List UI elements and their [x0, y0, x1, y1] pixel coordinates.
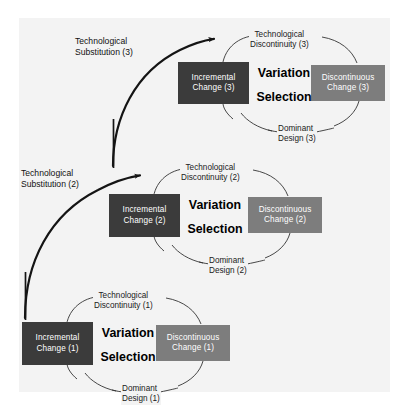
cycle-2-variation-selection-label: Variation Selection — [184, 199, 246, 236]
cycle-1-discontinuous-line1: Discontinuous — [167, 333, 220, 344]
cycle-2-discontinuous-change-box[interactable]: Discontinuous Change (2) — [248, 197, 322, 233]
cycle-2-variation-text: Variation — [184, 199, 246, 212]
cycle-3-discontinuous-line1: Discontinuous — [322, 73, 375, 84]
cycle-3-incremental-line1: Incremental — [192, 73, 236, 84]
substitution-2-line1: Technological — [21, 168, 79, 179]
cycle-3-variation-text: Variation — [253, 67, 315, 80]
cycle-2-selection-text: Selection — [184, 223, 246, 236]
cycle-1-incremental-line1: Incremental — [36, 333, 80, 344]
cycle-2-dominant-line2: Design (2) — [209, 266, 247, 276]
cycle-1-variation-selection-label: Variation Selection — [97, 327, 159, 364]
cycle-2-incremental-change-box[interactable]: Incremental Change (2) — [109, 194, 180, 237]
cycle-3-incremental-line2: Change (3) — [193, 83, 235, 94]
cycle-1-dominant-line1: Dominant — [122, 384, 160, 394]
cycle-2-dominant-line1: Dominant — [209, 256, 247, 266]
technological-substitution-2-label: Technological Substitution (2) — [20, 168, 80, 190]
cycle-1-discontinuity-line2: Discontinuity (1) — [94, 301, 153, 311]
cycle-3-discontinuous-line2: Change (3) — [327, 83, 369, 94]
cycle-1-dominant-design-label: Dominant Design (1) — [121, 384, 161, 405]
cycle-1-incremental-change-box[interactable]: Incremental Change (1) — [22, 322, 93, 365]
cycle-2-discontinuity-line1: Technological — [181, 163, 240, 173]
technological-substitution-3-label: Technological Substitution (3) — [74, 36, 134, 58]
cycle-2-discontinuous-line1: Discontinuous — [259, 205, 312, 216]
cycle-3-dominant-line2: Design (3) — [278, 134, 316, 144]
cycle-3-technological-discontinuity-label: Technological Discontinuity (3) — [249, 30, 310, 51]
cycle-1-selection-text: Selection — [97, 351, 159, 364]
cycle-3-discontinuity-line1: Technological — [250, 30, 309, 40]
cycle-1-variation-text: Variation — [97, 327, 159, 340]
cycle-3-incremental-change-box[interactable]: Incremental Change (3) — [178, 62, 249, 104]
cycle-1-incremental-line2: Change (1) — [37, 344, 79, 355]
cycle-1-discontinuous-line2: Change (1) — [172, 343, 214, 354]
substitution-3-line1: Technological — [75, 36, 133, 47]
cycle-1-discontinuity-line1: Technological — [94, 291, 153, 301]
cycle-3-dominant-design-label: Dominant Design (3) — [277, 124, 317, 145]
cycle-2-dominant-design-label: Dominant Design (2) — [208, 256, 248, 277]
cycle-3-discontinuous-change-box[interactable]: Discontinuous Change (3) — [311, 65, 385, 101]
cycle-3-variation-selection-label: Variation Selection — [253, 67, 315, 104]
cycle-2-incremental-line1: Incremental — [123, 205, 167, 216]
cycle-1-dominant-line2: Design (1) — [122, 394, 160, 404]
cycle-2-incremental-line2: Change (2) — [124, 216, 166, 227]
technology-cycle-diagram: Technological Discontinuity (3) Incremen… — [0, 0, 406, 407]
cycle-3-discontinuity-line2: Discontinuity (3) — [250, 40, 309, 50]
cycle-2-discontinuity-line2: Discontinuity (2) — [181, 173, 240, 183]
cycle-3-dominant-line1: Dominant — [278, 124, 316, 134]
cycle-1-discontinuous-change-box[interactable]: Discontinuous Change (1) — [156, 325, 230, 361]
cycle-3-selection-text: Selection — [253, 91, 315, 104]
cycle-2-technological-discontinuity-label: Technological Discontinuity (2) — [180, 163, 241, 184]
cycle-2-discontinuous-line2: Change (2) — [264, 215, 306, 226]
cycle-1-technological-discontinuity-label: Technological Discontinuity (1) — [93, 291, 154, 312]
substitution-2-line2: Substitution (2) — [21, 179, 79, 190]
substitution-3-line2: Substitution (3) — [75, 47, 133, 58]
